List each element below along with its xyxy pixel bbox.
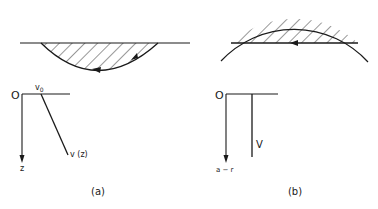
panel-a-velocity-profile: O z v0 v (z) [11,83,88,173]
origin-label: O [11,89,20,102]
panel-a-ray-diagram [20,43,190,73]
hatched-region [230,8,360,44]
caption-b: (b) [288,186,302,197]
depth-axis-arrow-icon [224,155,229,163]
profile-label: V [256,139,263,150]
origin-label: O [215,89,224,102]
depth-axis-label: z [20,164,24,173]
caption-a: (a) [91,186,105,197]
depth-axis-label: a − r [216,166,234,174]
surface-velocity-label: v0 [35,83,44,93]
panel-b-ray-diagram [221,8,368,62]
diagram-canvas: O z v0 v (z) O a − r V (a) (b) [0,0,378,209]
profile-label: v (z) [70,150,88,159]
linear-velocity-profile-line [41,94,68,155]
panel-b-velocity-profile: O a − r V [215,89,278,174]
depth-axis-arrow-icon [20,155,25,163]
